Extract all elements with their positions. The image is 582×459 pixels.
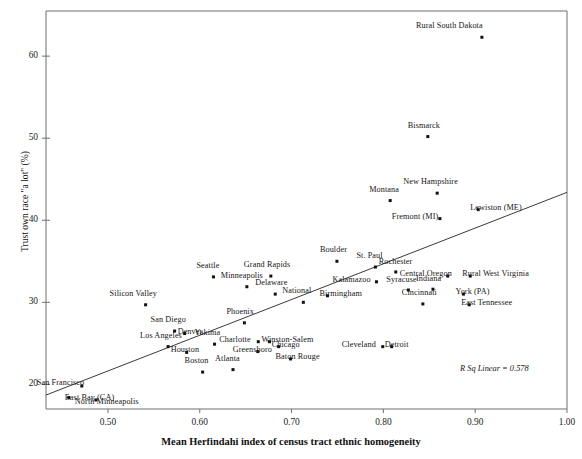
plot-canvas [0, 0, 582, 459]
point-label: Los Angeles [140, 331, 182, 340]
point-label: Bismarck [408, 121, 440, 130]
y-tick-label: 60 [18, 50, 38, 60]
point-label: San Diego [151, 315, 186, 324]
point-label: Boston [185, 356, 209, 365]
x-tick-label: 1.00 [555, 417, 579, 427]
y-axis-title: Trust own race "a lot" (%) [19, 92, 30, 312]
point-label: Atlanta [215, 354, 240, 363]
y-tick-label: 20 [18, 378, 38, 388]
point-label: Charlotte [219, 335, 250, 344]
point-label: Rural West Virginia [462, 269, 529, 278]
point-label: Silicon Valley [110, 289, 157, 298]
r-squared-annotation: R Sq Linear = 0.578 [460, 364, 529, 373]
point-label: Grand Rapids [244, 260, 290, 269]
point-label: Cleveland [342, 340, 376, 349]
scatter-chart: Rural South DakotaBismarckNew HampshireM… [0, 0, 582, 459]
point-label: Yakima [195, 328, 221, 337]
point-label: Houston [171, 345, 199, 354]
x-tick-label: 0.50 [96, 417, 120, 427]
x-tick-label: 0.60 [188, 417, 212, 427]
x-tick-label: 0.70 [280, 417, 304, 427]
point-label: San Francisco [37, 378, 84, 387]
x-tick-label: 0.90 [463, 417, 487, 427]
point-label: Rural South Dakota [416, 21, 483, 30]
point-label: National [282, 286, 311, 295]
point-label: Indiana [416, 274, 441, 283]
point-label: North Minneapolis [75, 397, 139, 406]
x-axis-title: Mean Herfindahi index of census tract et… [0, 436, 582, 447]
point-label: York (PA) [455, 287, 489, 296]
point-label: Birmingham [319, 289, 361, 298]
point-label: Boulder [320, 245, 347, 254]
point-label: New Hampshire [403, 177, 458, 186]
point-label: Lewiston (ME) [470, 203, 522, 212]
point-label: East Tennessee [461, 298, 512, 307]
point-label: Rochester [379, 257, 413, 266]
x-tick-label: 0.80 [371, 417, 395, 427]
point-label: Montana [369, 185, 399, 194]
point-label: Phoenix [226, 307, 254, 316]
point-label: Baton Rouge [276, 352, 320, 361]
point-label: Greensboro [233, 345, 272, 354]
point-label: Syracuse [386, 275, 416, 284]
point-label: Seattle [196, 261, 219, 270]
point-label: Detroit [385, 340, 409, 349]
point-label: Cincinnati [402, 288, 437, 297]
point-label: Kalamazoo [333, 275, 371, 284]
point-label: Fremont (MI) [392, 212, 438, 221]
point-label: Chicago [272, 340, 300, 349]
